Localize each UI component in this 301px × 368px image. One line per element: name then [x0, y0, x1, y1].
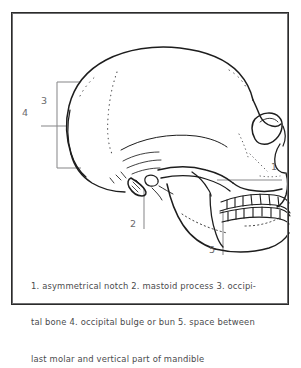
occipital-base	[71, 154, 125, 192]
caption-line-3: last molar and vertical part of mandible	[31, 353, 275, 365]
callout-label-5: 5	[209, 244, 215, 255]
lower-teeth	[220, 207, 290, 224]
figure-caption: 1. asymmetrical notch 2. mastoid process…	[31, 256, 275, 368]
temporal-line	[121, 135, 227, 150]
mandible-ramus	[167, 184, 215, 249]
eye-orbit	[252, 113, 282, 144]
caption-line-2: tal bone 4. occipital bulge or bun 5. sp…	[31, 316, 275, 328]
mandible-body	[215, 233, 289, 252]
orbit-inner	[260, 118, 278, 122]
callout-label-1: 1	[271, 161, 277, 172]
coronoid-process	[192, 172, 211, 196]
temporal-shading	[110, 152, 161, 183]
skull-drawing	[67, 47, 290, 252]
lambdoid-suture	[108, 72, 117, 154]
callout-label-2: 2	[130, 218, 136, 229]
zygomatic-arch-lower	[161, 176, 230, 191]
nasal-bridge	[283, 126, 285, 146]
skull-illustration	[24, 26, 301, 271]
ear-canal	[145, 175, 158, 186]
callout-label-4: 4	[22, 107, 28, 118]
maxilla-face	[233, 183, 282, 191]
caption-line-1: 1. asymmetrical notch 2. mastoid process…	[31, 280, 275, 292]
cranial-suture-dots	[80, 70, 246, 96]
callout-label-3: 3	[41, 95, 47, 106]
cranial-vault-outline	[67, 47, 253, 154]
